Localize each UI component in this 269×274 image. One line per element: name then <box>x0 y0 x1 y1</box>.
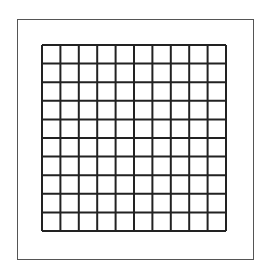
grid-10x10 <box>41 44 227 232</box>
grid-lines <box>41 44 227 232</box>
